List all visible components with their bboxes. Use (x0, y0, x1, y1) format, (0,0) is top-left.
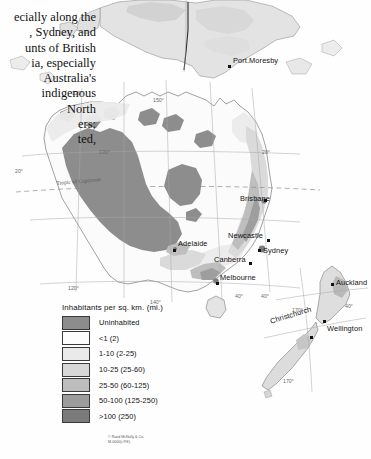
credit-line-2: M-0000(i-P.E). (108, 440, 144, 445)
graticule-label-40s: 40° (235, 293, 243, 299)
legend-title: Inhabitants per sq. km. (mi.) (62, 303, 227, 312)
graticule-label-120e-bot: 120° (68, 285, 79, 291)
map-page: Port.Moresby Brisbane Newcastle Sydney A… (0, 0, 371, 459)
credit-line-1: © Rand McNally & Co. (108, 435, 144, 440)
graticule-label-130e: 130° (99, 149, 110, 155)
city-label-auckland: Auckland (336, 278, 367, 287)
city-marker-port-moresby (228, 65, 231, 68)
legend-label-lt1: <1 (2) (99, 334, 119, 343)
graticule-label-20s-west: 20° (15, 168, 23, 174)
city-marker-sydney (258, 249, 261, 252)
body-text-line: indigenous (0, 86, 96, 101)
city-marker-canberra (249, 262, 252, 265)
legend-swatch-lt1 (62, 331, 90, 345)
body-text-line: , Sydney, and (0, 25, 96, 40)
body-text-line: ia, especially (0, 56, 96, 71)
legend-row-gt100: >100 (250) (62, 409, 227, 425)
legend-swatch-10-25 (62, 363, 90, 377)
city-marker-auckland (331, 283, 334, 286)
city-label-sydney: Sydney (263, 246, 288, 255)
legend-label-10-25: 10-25 (25-60) (99, 365, 145, 374)
legend-label-uninhabited: Uninhabited (99, 318, 140, 327)
legend-label-25-50: 25-50 (60-125) (99, 381, 149, 390)
city-marker-christchurch (310, 336, 313, 339)
body-text-line: Australia's (0, 71, 96, 86)
body-text-column: ecially along the , Sydney, and unts of … (0, 10, 96, 148)
legend-row-lt1: <1 (2) (62, 331, 227, 347)
city-marker-brisbane (264, 199, 267, 202)
legend-swatch-25-50 (62, 378, 90, 392)
city-label-melbourne: Melbourne (220, 273, 256, 282)
city-marker-wellington (323, 320, 326, 323)
legend-swatch-1-10 (62, 347, 90, 361)
graticule-label-170e-nz: 170° (292, 307, 303, 313)
city-marker-adelaide (173, 249, 176, 252)
legend-swatch-50-100 (62, 394, 90, 408)
legend-row-10-25: 10-25 (25-60) (62, 362, 227, 378)
body-text-line: unts of British (0, 41, 96, 56)
city-label-canberra: Canberra (214, 255, 246, 264)
legend-label-50-100: 50-100 (125-250) (99, 396, 158, 405)
city-label-newcastle: Newcastle (228, 231, 263, 240)
map-credit: © Rand McNally & Co. M-0000(i-P.E). (108, 435, 144, 444)
city-label-port-moresby: Port.Moresby (233, 56, 278, 65)
graticule-label-150e: 150° (153, 97, 164, 103)
city-label-wellington: Wellington (327, 324, 362, 333)
legend-row-25-50: 25-50 (60-125) (62, 377, 227, 393)
legend-label-1-10: 1-10 (2-25) (99, 349, 137, 358)
body-text-line: North (0, 102, 96, 117)
map-legend: Inhabitants per sq. km. (mi.) Uninhabite… (62, 303, 227, 424)
new-guinea-landmass (60, 0, 300, 78)
city-marker-newcastle (267, 239, 270, 242)
graticule-label-20s-east: 20° (262, 149, 270, 155)
body-text-line: ers; (0, 117, 96, 132)
legend-label-gt100: >100 (250) (99, 412, 136, 421)
legend-row-50-100: 50-100 (125-250) (62, 393, 227, 409)
city-label-adelaide: Adelaide (178, 239, 208, 248)
body-text-line: ecially along the (0, 10, 96, 25)
graticule-label-170e-bot: 170° (283, 378, 294, 384)
legend-swatch-gt100 (62, 409, 90, 423)
legend-row-1-10: 1-10 (2-25) (62, 346, 227, 362)
legend-row-uninhabited: Uninhabited (62, 315, 227, 331)
graticule-label-40s-nz: 40° (345, 303, 353, 309)
legend-swatch-uninhabited (62, 316, 90, 330)
city-marker-melbourne (216, 282, 219, 285)
body-text-line: ted, (0, 132, 96, 147)
graticule-label-40s-mid: 40° (261, 293, 269, 299)
